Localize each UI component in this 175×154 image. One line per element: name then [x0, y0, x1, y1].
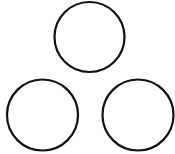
- circle-bottom-left: [7, 80, 78, 151]
- three-circles-diagram: [0, 0, 175, 154]
- circle-top: [55, 2, 125, 72]
- circle-bottom-right: [103, 80, 174, 151]
